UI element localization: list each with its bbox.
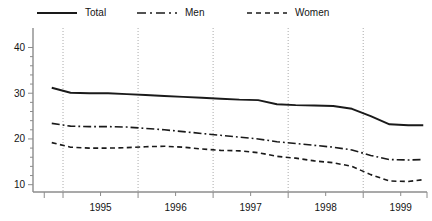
- svg-text:20: 20: [14, 133, 26, 144]
- dashed-line-swatch: [246, 7, 288, 19]
- svg-text:1995: 1995: [89, 202, 112, 213]
- plot-svg: 1020304019951996199719981999: [0, 26, 432, 221]
- svg-text:30: 30: [14, 88, 26, 99]
- series-line-women: [52, 143, 423, 182]
- chart-legend: Total Men Women: [0, 0, 432, 26]
- svg-text:1998: 1998: [315, 202, 338, 213]
- line-chart: Total Men Women 1020304019951996: [0, 0, 432, 221]
- legend-label-men: Men: [185, 8, 204, 18]
- svg-text:1996: 1996: [164, 202, 187, 213]
- svg-text:40: 40: [14, 42, 26, 53]
- series-line-men: [52, 123, 423, 160]
- legend-label-total: Total: [85, 8, 106, 18]
- series-line-total: [52, 88, 423, 126]
- legend-label-women: Women: [295, 8, 329, 18]
- data-series: [52, 88, 423, 182]
- axis-ticks: [28, 47, 427, 198]
- axes: [33, 28, 427, 192]
- legend-item-women: Women: [246, 0, 329, 26]
- svg-text:10: 10: [14, 179, 26, 190]
- legend-item-men: Men: [136, 0, 204, 26]
- dashdot-line-swatch: [136, 7, 178, 19]
- solid-line-swatch: [36, 7, 78, 19]
- legend-item-total: Total: [36, 0, 106, 26]
- plot-area: 1020304019951996199719981999: [0, 26, 432, 221]
- gridlines: [63, 28, 363, 192]
- svg-text:1999: 1999: [390, 202, 413, 213]
- svg-text:1997: 1997: [240, 202, 263, 213]
